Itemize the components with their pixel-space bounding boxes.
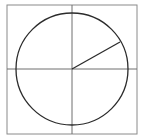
circle-diagram (0, 0, 142, 140)
radius-line (72, 42, 120, 69)
